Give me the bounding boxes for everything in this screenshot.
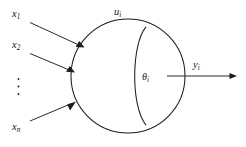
label-neuron-body-ui-sub: i (119, 11, 121, 19)
ellipsis-dot-2 (18, 86, 20, 88)
neuron-diagram: x1 x2 xn ui θi yi (0, 0, 246, 147)
label-input-x1-sub: 1 (17, 13, 21, 21)
input-arrow-x2-line (30, 54, 71, 71)
ellipsis-dot-3 (18, 93, 20, 95)
input-arrow-x1 (30, 23, 85, 48)
label-input-xn-sub: n (17, 126, 21, 134)
input-arrow-xn-head (67, 102, 76, 111)
output-arrow-yi-head (230, 73, 238, 79)
label-threshold-theta: θi (142, 71, 149, 84)
input-arrow-xn-line (30, 104, 72, 122)
label-neuron-body-ui: ui (114, 6, 121, 19)
ellipsis-dot-1 (18, 78, 20, 80)
label-output-yi-sub: i (198, 64, 200, 72)
output-arrow-yi (167, 73, 237, 79)
input-arrow-x1-line (30, 23, 80, 46)
label-input-x2-sub: 2 (17, 44, 21, 52)
label-input-x1: x1 (11, 8, 20, 21)
label-input-x2: x2 (11, 39, 21, 52)
input-ellipsis (18, 78, 20, 95)
input-arrow-xn (30, 102, 76, 122)
label-threshold-theta-sub: i (147, 76, 149, 84)
label-input-xn: xn (11, 121, 21, 134)
label-output-yi: yi (192, 59, 200, 72)
input-arrow-x2 (30, 54, 75, 73)
